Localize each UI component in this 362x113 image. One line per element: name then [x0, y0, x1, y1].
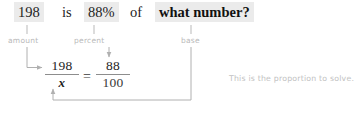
sentence-preposition-of: of — [130, 3, 142, 21]
right-denominator: 100 — [96, 76, 130, 90]
explanatory-note: This is the proportion to solve. — [229, 74, 354, 84]
percent-sentence: 198 is 88% of what number? — [0, 3, 362, 23]
role-label-percent: percent — [74, 36, 104, 46]
right-fraction: 88 100 — [96, 59, 130, 90]
left-denominator: x — [45, 76, 79, 90]
equals-sign: = — [83, 70, 91, 84]
left-numerator: 198 — [45, 59, 79, 73]
role-label-base: base — [181, 36, 200, 46]
base-value: what number? — [155, 2, 254, 22]
percent-proportion-diagram: 198 is 88% of what number? amount percen… — [0, 0, 362, 113]
percent-value: 88% — [84, 2, 119, 22]
left-fraction: 198 x — [45, 59, 79, 90]
amount-value: 198 — [14, 2, 44, 22]
role-label-amount: amount — [8, 36, 38, 46]
wire-amount-to-numerator — [27, 47, 42, 68]
sentence-verb-is: is — [62, 3, 72, 21]
right-numerator: 88 — [96, 59, 130, 73]
